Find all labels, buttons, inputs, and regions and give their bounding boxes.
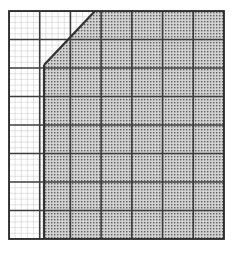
grid-figure (0, 0, 235, 253)
grid-figure-canvas (0, 0, 235, 253)
